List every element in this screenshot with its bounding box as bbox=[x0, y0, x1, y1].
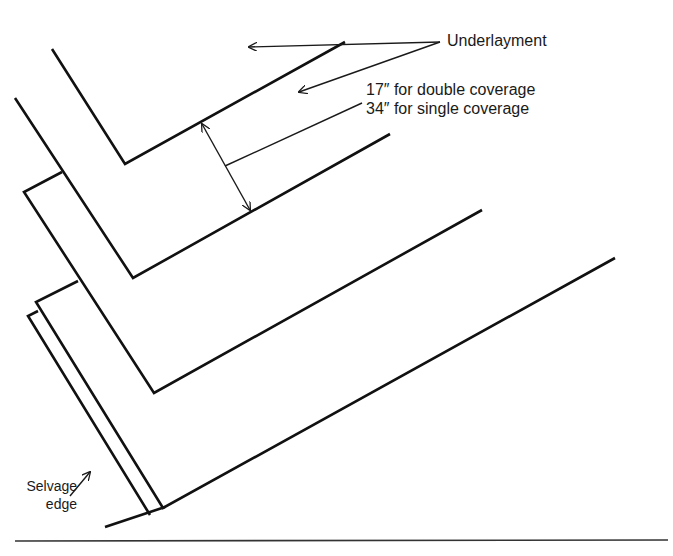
coverage-dimension-arrow bbox=[202, 124, 250, 210]
selvage-label-line1: Selvage bbox=[17, 477, 77, 495]
single-coverage-label: 34″ for single coverage bbox=[366, 99, 535, 118]
coverage-label: 17″ for double coverage 34″ for single c… bbox=[366, 80, 535, 118]
underlayment-strip-1 bbox=[52, 42, 345, 164]
selvage-edge-label: Selvage edge bbox=[17, 477, 77, 513]
coverage-leader-line bbox=[225, 103, 362, 166]
figure-bottom-rule bbox=[15, 540, 668, 541]
selvage-label-line2: edge bbox=[17, 495, 77, 513]
roof-valley-diagram bbox=[0, 0, 673, 556]
strip-bottom-cap bbox=[105, 507, 165, 527]
underlayment-strip-3 bbox=[24, 172, 482, 393]
underlayment-label: Underlayment bbox=[447, 32, 547, 50]
double-coverage-label: 17″ for double coverage bbox=[366, 80, 535, 99]
